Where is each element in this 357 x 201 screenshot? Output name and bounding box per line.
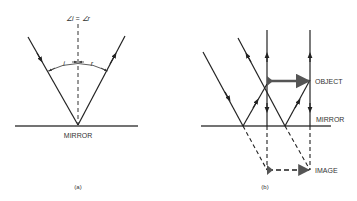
reflection-angle-label: r <box>91 60 94 67</box>
object-tail <box>267 76 273 86</box>
image-tail <box>267 165 273 175</box>
incident-arrow <box>37 53 41 60</box>
mirror-label-b: MIRROR <box>316 116 344 123</box>
object-label: OBJECT <box>315 78 343 85</box>
reflected-arrow-2 <box>295 101 299 108</box>
incident-arrow-1 <box>225 92 229 99</box>
ray-2-arrow <box>247 55 251 62</box>
panel-b: OBJECT MIRROR IMAGE (b) <box>201 30 344 190</box>
reflected-arrow <box>110 55 115 64</box>
reflected-ray <box>78 36 125 125</box>
caption-a: (a) <box>74 184 81 190</box>
reflected-arrow-1 <box>253 101 257 108</box>
angle-equality-label: ∠i = ∠r <box>66 15 91 22</box>
mirror-label-a: MIRROR <box>64 132 92 139</box>
incidence-angle-label: i <box>63 60 65 67</box>
incident-ray-1 <box>203 52 243 126</box>
image-label: IMAGE <box>315 167 338 174</box>
incident-ray <box>28 37 78 125</box>
virtual-ray-1 <box>243 126 267 170</box>
virtual-ray-2 <box>285 126 310 170</box>
caption-b: (b) <box>261 184 268 190</box>
arc-arrow-left <box>49 68 55 71</box>
panel-a: ∠i = ∠r i r MIRROR (a) <box>15 14 138 190</box>
reflection-diagram: ∠i = ∠r i r MIRROR (a) OBJECT <box>0 0 357 201</box>
arc-arrow-right <box>101 68 107 71</box>
